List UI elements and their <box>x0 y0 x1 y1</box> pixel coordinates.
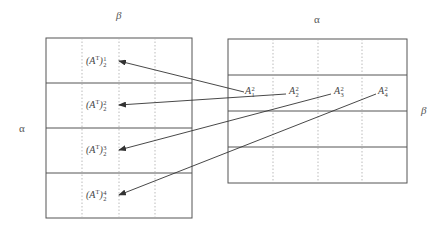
arrow-4 <box>119 94 376 195</box>
right-label-a4: A24 <box>378 86 388 98</box>
left-side-alpha-label: α <box>19 123 25 134</box>
diagram-canvas <box>0 0 443 232</box>
arrow-2 <box>119 94 286 105</box>
left-row-label-1: (AT)12 <box>86 55 107 68</box>
left-row-label-4: (AT)42 <box>86 189 107 202</box>
left-row-label-2: (AT)22 <box>86 99 107 112</box>
right-side-beta-label: β <box>421 105 426 116</box>
right-matrix <box>228 39 407 183</box>
right-label-a2: A22 <box>289 86 299 98</box>
right-label-a1: A21 <box>245 86 255 98</box>
left-top-beta-label: β <box>116 10 121 21</box>
right-top-alpha-label: α <box>314 14 320 25</box>
arrow-3 <box>119 94 331 150</box>
arrow-1 <box>119 61 244 92</box>
left-row-label-3: (AT)32 <box>86 144 107 157</box>
right-label-a3: A23 <box>334 86 344 98</box>
left-matrix <box>46 38 192 218</box>
